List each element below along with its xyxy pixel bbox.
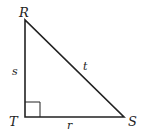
right-triangle-diagram: R T S s t r: [0, 0, 143, 134]
right-angle-marker: [25, 102, 40, 117]
side-label-s: s: [12, 65, 18, 78]
side-label-r: r: [67, 119, 73, 132]
vertex-label-s: S: [128, 114, 137, 129]
side-label-t: t: [83, 60, 88, 73]
vertex-label-r: R: [18, 5, 29, 20]
vertex-label-t: T: [9, 114, 19, 129]
